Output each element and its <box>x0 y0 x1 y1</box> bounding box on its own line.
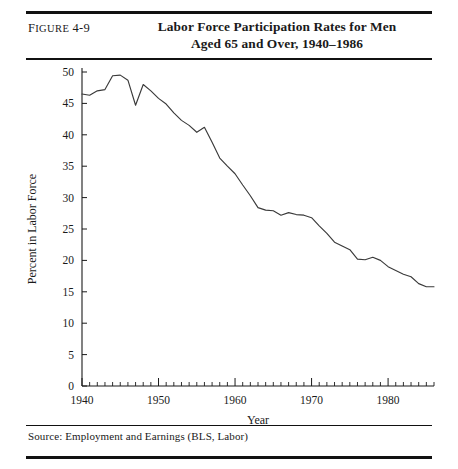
y-tick-label: 30 <box>63 192 75 204</box>
x-tick-label: 1970 <box>300 394 323 406</box>
figure-number-smallcaps: IGURE <box>35 23 69 34</box>
y-tick-label: 10 <box>63 317 75 329</box>
x-tick-label: 1950 <box>147 394 170 406</box>
line-chart: 0510152025303540455019401950196019701980… <box>0 58 458 425</box>
source-note: Source: Employment and Earnings (BLS, La… <box>28 430 248 442</box>
figure-number: FIGURE 4-9 <box>28 21 90 36</box>
figure-header: FIGURE 4-9 Labor Force Participation Rat… <box>26 18 432 58</box>
figure-number-value: 4-9 <box>69 21 90 35</box>
y-tick-label: 20 <box>63 254 75 266</box>
y-tick-label: 5 <box>68 349 74 361</box>
top-rule <box>26 11 432 14</box>
y-tick-label: 15 <box>63 286 75 298</box>
x-axis-title: Year <box>247 413 269 425</box>
figure-container: FIGURE 4-9 Labor Force Participation Rat… <box>0 0 458 469</box>
bottom-rule <box>26 456 432 459</box>
x-tick-label: 1940 <box>71 394 94 406</box>
y-tick-label: 25 <box>63 223 75 235</box>
x-tick-label: 1960 <box>224 394 247 406</box>
y-tick-label: 45 <box>63 97 75 109</box>
y-tick-label: 0 <box>68 380 74 392</box>
source-rule <box>26 425 432 426</box>
series-line <box>82 75 434 287</box>
y-tick-label: 35 <box>63 160 75 172</box>
x-tick-label: 1980 <box>377 394 400 406</box>
figure-title: Labor Force Participation Rates for Men … <box>122 18 432 52</box>
y-tick-label: 50 <box>63 66 75 78</box>
y-tick-label: 40 <box>63 129 75 141</box>
chart-plot-area: 0510152025303540455019401950196019701980… <box>0 58 458 425</box>
y-axis-title: Percent in Labor Force <box>25 174 39 284</box>
figure-title-line2: Aged 65 and Over, 1940–1986 <box>191 36 363 51</box>
figure-title-line1: Labor Force Participation Rates for Men <box>158 19 397 34</box>
